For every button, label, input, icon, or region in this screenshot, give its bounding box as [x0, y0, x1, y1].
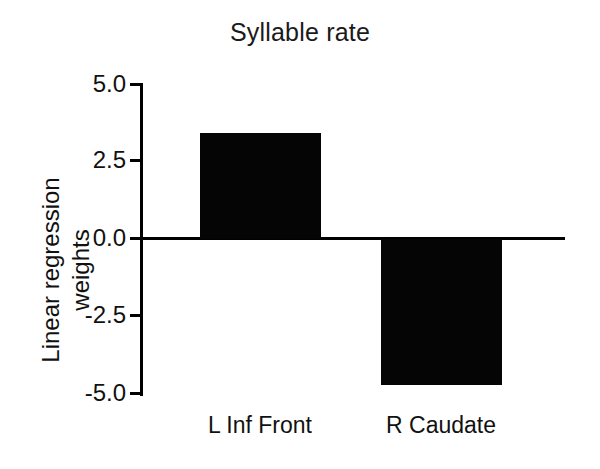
x-category-label-r-caudate: R Caudate	[341, 412, 541, 438]
plot-area: 5.0 2.5 0.0 -2.5 -5.0 L Inf Front R Caud…	[0, 0, 600, 469]
y-tick-label--5.0: -5.0	[6, 381, 126, 405]
y-tick-mark-5.0	[130, 83, 141, 86]
y-tick-label--2.5: -2.5	[6, 303, 126, 327]
x-category-label-l-inf-front: L Inf Front	[160, 412, 360, 438]
y-tick-label-0.0: 0.0	[6, 226, 126, 250]
y-tick-label-5.0: 5.0	[6, 72, 126, 96]
y-tick-label-2.5: 2.5	[6, 148, 126, 172]
bar-l-inf-front	[200, 133, 321, 239]
y-tick-mark-2.5	[130, 159, 141, 162]
y-tick-mark-0.0	[130, 237, 141, 240]
bar-r-caudate	[381, 239, 502, 385]
y-tick-mark--5.0	[130, 392, 141, 395]
bar-chart-figure: Syllable rate Linear regression weights …	[0, 0, 600, 469]
y-tick-mark--2.5	[130, 314, 141, 317]
